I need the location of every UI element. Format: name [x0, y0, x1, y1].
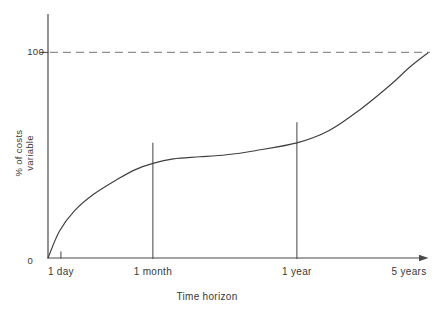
chart-figure: 100 0 1 day 1 month 1 year 5 years Time …: [0, 0, 442, 314]
x-axis-arrowhead: [419, 255, 429, 261]
y-axis-title-line-2: variable: [24, 123, 35, 183]
origin-label: 0: [21, 256, 33, 266]
cost-variability-curve: [48, 53, 428, 258]
x-tick-label-1-month: 1 month: [134, 266, 172, 277]
x-axis-markers: [61, 122, 297, 259]
x-tick-label-5-years: 5 years: [392, 266, 427, 277]
y-axis-title-line-1: % of costs: [13, 123, 24, 183]
y-tick-label-100: 100: [18, 47, 44, 57]
x-tick-label-1-day: 1 day: [48, 266, 74, 277]
y-axis-title: % of costs variable: [13, 123, 35, 183]
x-axis-title: Time horizon: [176, 291, 237, 302]
x-tick-label-1-year: 1 year: [282, 266, 312, 277]
